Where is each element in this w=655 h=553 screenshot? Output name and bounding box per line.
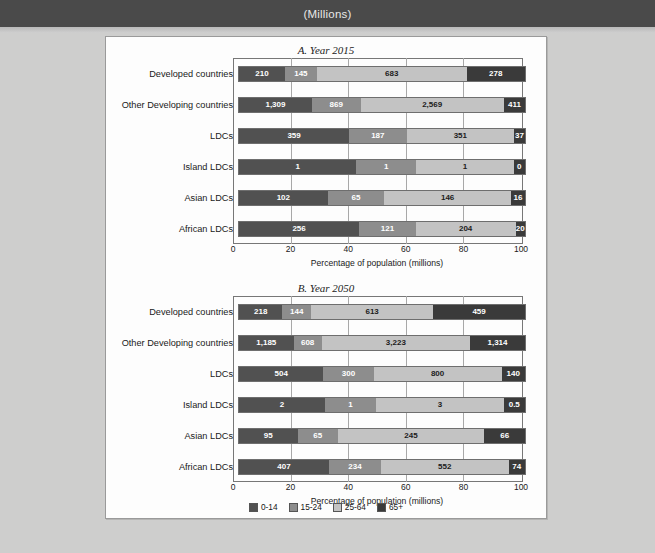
bar-value-label: 16 [514, 193, 523, 202]
category-label: Asian LDCs [106, 431, 238, 441]
bar-segment-25-64[interactable]: 351 [407, 129, 515, 143]
bar-segment-65+[interactable]: 16 [511, 191, 525, 205]
bar-area: 1110 [238, 151, 526, 182]
category-label: African LDCs [106, 462, 238, 472]
bar-segment-0-14[interactable]: 359 [239, 129, 349, 143]
stacked-bar[interactable]: 218144613459 [238, 304, 526, 320]
bar-value-label: 869 [330, 100, 343, 109]
bar-segment-15-24[interactable]: 187 [349, 129, 406, 143]
stacked-bar[interactable]: 25612120420 [238, 221, 526, 237]
bar-segment-65+[interactable]: 66 [484, 429, 525, 443]
bar-segment-65+[interactable]: 37 [514, 129, 525, 143]
bar-value-label: 3,223 [386, 338, 406, 347]
bar-segment-15-24[interactable]: 65 [328, 191, 385, 205]
bar-area: 1026514616 [238, 182, 526, 213]
bar-value-label: 210 [255, 69, 268, 78]
bar-segment-15-24[interactable]: 144 [282, 305, 311, 319]
bar-value-label: 552 [438, 462, 451, 471]
bar-area: 1,3098692,569411 [238, 89, 526, 120]
bar-area: 504300800140 [238, 358, 526, 389]
bar-segment-25-64[interactable]: 800 [374, 367, 502, 381]
stacked-bar[interactable]: 210145683278 [238, 66, 526, 82]
bar-segment-65+[interactable]: 1,314 [470, 336, 525, 350]
bar-value-label: 0.5 [509, 400, 520, 409]
category-label: Island LDCs [106, 162, 238, 172]
legend-label: 25-64 [345, 502, 366, 512]
bar-value-label: 95 [264, 431, 273, 440]
chart-row: African LDCs25612120420 [106, 213, 546, 244]
bar-segment-25-64[interactable]: 146 [384, 191, 511, 205]
legend-item-25-64[interactable]: 25-64 [333, 502, 366, 512]
bar-value-label: 140 [507, 369, 520, 378]
bar-segment-65+[interactable]: 74 [509, 460, 525, 474]
stacked-bar[interactable]: 1,1856083,2231,314 [238, 335, 526, 351]
bar-segment-25-64[interactable]: 2,569 [361, 98, 504, 112]
stacked-bar[interactable]: 1026514616 [238, 190, 526, 206]
bar-segment-0-14[interactable]: 407 [239, 460, 329, 474]
bar-segment-0-14[interactable]: 2 [239, 398, 325, 412]
bar-segment-15-24[interactable]: 234 [329, 460, 381, 474]
stacked-bar[interactable]: 1,3098692,569411 [238, 97, 526, 113]
bar-segment-65+[interactable]: 20 [516, 222, 525, 236]
bar-segment-65+[interactable]: 459 [433, 305, 525, 319]
bar-segment-25-64[interactable]: 204 [416, 222, 516, 236]
bar-area: 210145683278 [238, 58, 526, 89]
bar-segment-25-64[interactable]: 245 [338, 429, 485, 443]
bar-segment-25-64[interactable]: 3,223 [322, 336, 470, 350]
category-label: LDCs [106, 369, 238, 379]
bar-segment-25-64[interactable]: 613 [311, 305, 433, 319]
bar-value-label: 1 [295, 162, 299, 171]
x-tick-label: 60 [401, 482, 410, 492]
bar-value-label: 2,569 [422, 100, 442, 109]
bar-segment-25-64[interactable]: 3 [376, 398, 503, 412]
bar-value-label: 1 [463, 162, 467, 171]
category-label: Developed countries [106, 69, 238, 79]
bar-segment-0-14[interactable]: 1,309 [239, 98, 312, 112]
bar-segment-15-24[interactable]: 65 [298, 429, 338, 443]
bar-segment-0-14[interactable]: 102 [239, 191, 328, 205]
bar-segment-15-24[interactable]: 300 [323, 367, 373, 381]
bar-segment-0-14[interactable]: 95 [239, 429, 298, 443]
bar-segment-65+[interactable]: 278 [467, 67, 525, 81]
stacked-bar[interactable]: 40723455274 [238, 459, 526, 475]
legend-swatch-icon [333, 503, 342, 512]
bar-value-label: 74 [512, 462, 521, 471]
bar-segment-0-14[interactable]: 1 [239, 160, 356, 174]
bar-area: 40723455274 [238, 451, 526, 482]
bar-segment-15-24[interactable]: 1 [356, 160, 416, 174]
bar-segment-65+[interactable]: 411 [504, 98, 525, 112]
bar-segment-15-24[interactable]: 121 [359, 222, 416, 236]
bar-segment-15-24[interactable]: 869 [312, 98, 361, 112]
bar-segment-0-14[interactable]: 210 [239, 67, 285, 81]
bar-segment-25-64[interactable]: 552 [381, 460, 509, 474]
bar-area: 25612120420 [238, 213, 526, 244]
bar-segment-25-64[interactable]: 683 [317, 67, 467, 81]
legend-label: 65+ [389, 502, 403, 512]
bar-segment-15-24[interactable]: 1 [325, 398, 376, 412]
bar-value-label: 800 [431, 369, 444, 378]
bar-area: 218144613459 [238, 296, 526, 327]
chart-row: Developed countries218144613459 [106, 296, 546, 327]
chart-b-xaxis: 020406080100 [233, 482, 521, 495]
bar-segment-65+[interactable]: 0 [514, 160, 525, 174]
chart-row: Developed countries210145683278 [106, 58, 546, 89]
bar-segment-0-14[interactable]: 504 [239, 367, 323, 381]
bar-segment-0-14[interactable]: 1,185 [239, 336, 294, 350]
bar-segment-0-14[interactable]: 256 [239, 222, 359, 236]
stacked-bar[interactable]: 1110 [238, 159, 526, 175]
bar-segment-15-24[interactable]: 608 [294, 336, 322, 350]
stacked-bar[interactable]: 35918735137 [238, 128, 526, 144]
legend-item-15-24[interactable]: 15-24 [289, 502, 322, 512]
legend-item-0-14[interactable]: 0-14 [249, 502, 278, 512]
stacked-bar[interactable]: 956524566 [238, 428, 526, 444]
legend-item-65+[interactable]: 65+ [377, 502, 403, 512]
bar-segment-65+[interactable]: 0.5 [504, 398, 525, 412]
bar-segment-65+[interactable]: 140 [502, 367, 525, 381]
bar-segment-25-64[interactable]: 1 [416, 160, 513, 174]
chart-row: Asian LDCs1026514616 [106, 182, 546, 213]
stacked-bar[interactable]: 2130.5 [238, 397, 526, 413]
stacked-bar[interactable]: 504300800140 [238, 366, 526, 382]
bar-segment-0-14[interactable]: 218 [239, 305, 282, 319]
bar-segment-15-24[interactable]: 145 [285, 67, 317, 81]
header-shadow [0, 27, 655, 33]
